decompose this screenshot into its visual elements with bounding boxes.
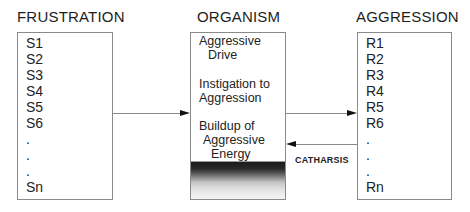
- stimulus-item: S3: [26, 67, 43, 83]
- organism-box: Aggressive Drive Instigation to Aggressi…: [190, 32, 286, 200]
- stimulus-item: .: [26, 163, 43, 179]
- buildup-line-3: Energy: [199, 147, 265, 161]
- arrow-left-icon: [286, 141, 296, 147]
- catharsis-feedback-line: [296, 144, 357, 145]
- arrow-right-icon: [347, 110, 357, 116]
- response-item: .: [366, 163, 384, 179]
- stimulus-item: S5: [26, 99, 43, 115]
- response-item: R4: [366, 83, 384, 99]
- frustration-to-organism-line: [113, 113, 181, 114]
- stimulus-item: S2: [26, 51, 43, 67]
- drive-line-2: Drive: [199, 48, 261, 62]
- aggression-box: R1 R2 R3 R4 R5 R6 . . . Rn: [357, 32, 452, 200]
- stimulus-item: S4: [26, 83, 43, 99]
- stimulus-item: .: [26, 147, 43, 163]
- stimulus-item: .: [26, 131, 43, 147]
- aggression-title: AGGRESSION: [356, 8, 459, 25]
- response-item: .: [366, 147, 384, 163]
- aggressive-drive-label: Aggressive Drive: [199, 34, 261, 62]
- instigation-label: Instigation to Aggression: [199, 77, 270, 105]
- organism-title: ORGANISM: [197, 8, 280, 25]
- response-list: R1 R2 R3 R4 R5 R6 . . . Rn: [366, 35, 384, 195]
- response-item: R6: [366, 115, 384, 131]
- arrow-right-icon: [180, 110, 190, 116]
- response-item: R2: [366, 51, 384, 67]
- stimulus-item: S6: [26, 115, 43, 131]
- instigation-line-2: Aggression: [199, 91, 270, 105]
- buildup-line-1: Buildup of: [199, 119, 265, 133]
- response-item: R5: [366, 99, 384, 115]
- buildup-line-2: Aggressive: [199, 133, 265, 147]
- catharsis-label: CATHARSIS: [295, 155, 349, 165]
- response-item: R3: [366, 67, 384, 83]
- response-item: R1: [366, 35, 384, 51]
- drive-line-1: Aggressive: [199, 34, 261, 48]
- energy-gauge: [191, 161, 285, 199]
- instigation-line-1: Instigation to: [199, 77, 270, 91]
- stimulus-item: Sn: [26, 179, 43, 195]
- organism-to-aggression-line: [286, 113, 348, 114]
- frustration-title: FRUSTRATION: [17, 8, 125, 25]
- stimulus-item: S1: [26, 35, 43, 51]
- stimulus-list: S1 S2 S3 S4 S5 S6 . . . Sn: [26, 35, 43, 195]
- response-item: Rn: [366, 179, 384, 195]
- buildup-label: Buildup of Aggressive Energy: [199, 119, 265, 161]
- response-item: .: [366, 131, 384, 147]
- frustration-box: S1 S2 S3 S4 S5 S6 . . . Sn: [17, 32, 113, 200]
